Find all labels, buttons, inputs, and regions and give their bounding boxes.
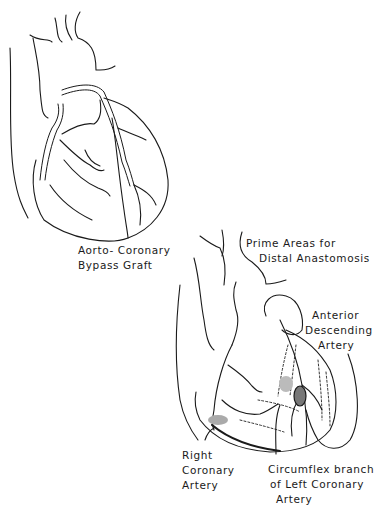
label-line-1: Anterior [312, 308, 373, 323]
label-line-1: Right [182, 448, 235, 463]
label-line-3: Artery [276, 492, 374, 507]
right-coronary-artery-label: Right Coronary Artery [182, 448, 235, 493]
circumflex-branch-label: Circumflex branch of Left Coronary Arter… [268, 462, 374, 507]
label-line-3: Artery [182, 478, 235, 493]
top-heart-drawing [10, 12, 168, 241]
label-line-2: Coronary [182, 463, 235, 478]
label-line-2: of Left Coronary [270, 477, 374, 492]
label-line-1: Circumflex branch [268, 462, 374, 477]
diagram-canvas: Aorto- Coronary Bypass Graft Prime Areas… [0, 0, 378, 511]
caption-line-2: Bypass Graft [78, 258, 171, 273]
title-line-2: Distal Anastomosis [259, 251, 370, 266]
caption-line-1: Aorto- Coronary [78, 243, 171, 258]
prime-areas-title: Prime Areas for Distal Anastomosis [246, 236, 370, 266]
anterior-descending-artery-label: Anterior Descending Artery [312, 308, 373, 353]
bypass-graft-caption: Aorto- Coronary Bypass Graft [78, 243, 171, 273]
label-line-3: Artery [318, 338, 373, 353]
title-line-1: Prime Areas for [246, 236, 370, 251]
label-line-2: Descending [305, 323, 373, 338]
